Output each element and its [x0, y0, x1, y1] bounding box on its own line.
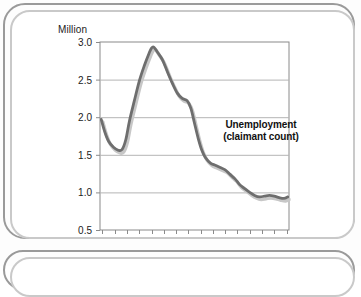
y-tick-label: 2.5 [78, 75, 92, 86]
y-tick-label: 1.0 [78, 187, 92, 198]
y-tick-label: 2.0 [78, 112, 92, 123]
y-tick-label: 1.5 [78, 150, 92, 161]
y-tick-label: 3.0 [78, 37, 92, 48]
next-panel-inner-border [10, 257, 355, 297]
annotation-line-2: (claimant count) [205, 131, 317, 143]
y-tick-label: 0.5 [78, 225, 92, 236]
series-annotation: Unemployment (claimant count) [205, 119, 317, 143]
chart-container: Million 0.51.01.52.02.53.089919395979901… [12, 12, 353, 237]
annotation-line-1: Unemployment [205, 119, 317, 131]
